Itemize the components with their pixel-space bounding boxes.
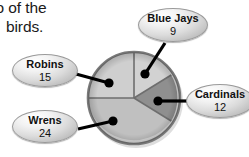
callout-cardinals-label: Cardinals bbox=[195, 89, 245, 100]
connector-dot-blue-jays bbox=[140, 69, 149, 78]
connector-dot-wrens bbox=[108, 116, 117, 125]
callout-cardinals-value: 12 bbox=[214, 101, 226, 113]
pie-inner-shading bbox=[88, 52, 180, 144]
callout-cardinals[interactable]: Cardinals 12 bbox=[186, 84, 249, 118]
callout-robins-label: Robins bbox=[26, 59, 63, 70]
callout-robins-value: 15 bbox=[39, 71, 51, 83]
callout-robins[interactable]: Robins 15 bbox=[12, 54, 78, 87]
connector-dot-robins bbox=[104, 78, 113, 87]
callout-blue-jays-label: Blue Jays bbox=[147, 13, 198, 24]
connector-dot-cardinals bbox=[153, 96, 162, 105]
figure-container: tio of the birds. bbox=[0, 0, 249, 157]
callout-blue-jays[interactable]: Blue Jays 9 bbox=[138, 8, 208, 42]
callout-wrens-value: 24 bbox=[39, 127, 51, 139]
callout-wrens[interactable]: Wrens 24 bbox=[12, 110, 78, 143]
callout-wrens-label: Wrens bbox=[28, 115, 61, 126]
callout-blue-jays-value: 9 bbox=[170, 25, 176, 37]
